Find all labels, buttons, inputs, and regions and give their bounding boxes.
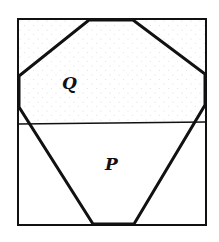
upper-shaded-region <box>18 19 206 123</box>
region-label-p: P <box>104 154 119 174</box>
geometry-diagram: Q P <box>0 0 219 242</box>
region-label-q: Q <box>62 73 77 93</box>
